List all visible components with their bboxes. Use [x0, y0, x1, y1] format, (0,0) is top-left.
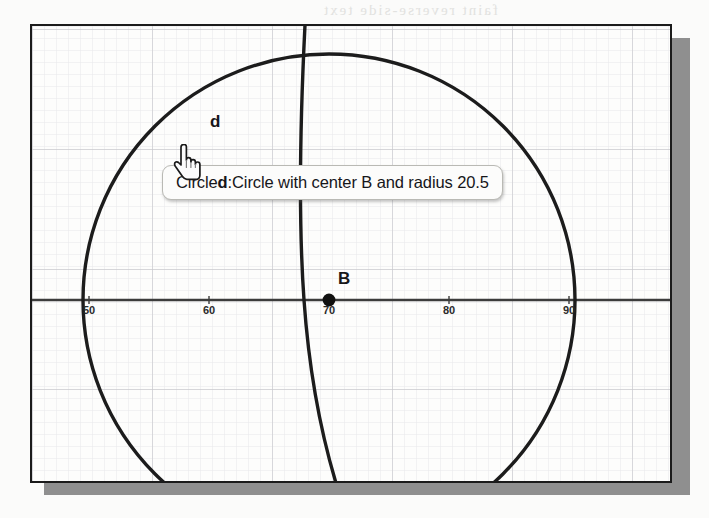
- x-tick-label-60: 60: [203, 304, 215, 316]
- x-tick-label-50: 50: [83, 304, 95, 316]
- object-tooltip: Circle d: Circle with center B and radiu…: [162, 165, 503, 200]
- x-tick-label-80: 80: [443, 304, 455, 316]
- tooltip-prefix: Circle: [176, 173, 218, 192]
- grid-major: [32, 26, 670, 481]
- label-point-b[interactable]: B: [338, 269, 350, 289]
- scanned-page-background: faint reverse-side text faint reverse-si…: [0, 0, 709, 518]
- x-tick-label-70: 70: [323, 304, 335, 316]
- graphics-canvas[interactable]: 50 60 70 80 90 d B Circle d: Circle with…: [32, 26, 670, 481]
- graphics-view[interactable]: 50 60 70 80 90 d B Circle d: Circle with…: [30, 24, 672, 483]
- bleed-through-text-1: faint reverse-side text: [322, 2, 498, 19]
- label-circle-d[interactable]: d: [210, 112, 220, 132]
- tooltip-description: Circle with center B and radius 20.5: [232, 173, 489, 192]
- x-tick-label-90: 90: [563, 304, 575, 316]
- tooltip-object-name: d: [218, 173, 228, 192]
- geometry-plot: [32, 26, 670, 481]
